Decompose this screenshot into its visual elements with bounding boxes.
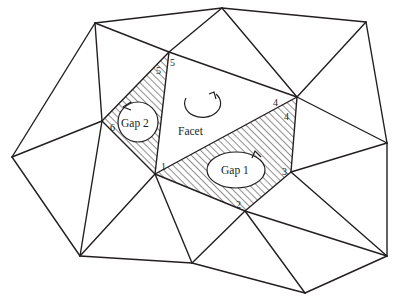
edge	[12, 23, 95, 157]
mesh-edges	[12, 8, 387, 293]
vertex-5-outer-label: 5	[170, 57, 175, 68]
facet-loop: Facet	[178, 92, 221, 137]
vertex-2-label: 2	[236, 199, 241, 210]
edge	[222, 8, 366, 22]
edge	[95, 23, 169, 52]
edge	[95, 8, 222, 23]
vertex-6-label: 6	[110, 122, 115, 133]
vertex-4-inner-label: 4	[284, 111, 289, 122]
vertex-1-label: 1	[161, 161, 166, 172]
edge	[297, 22, 366, 97]
gap-1-loop: Gap 1	[207, 151, 265, 188]
edge	[95, 23, 102, 121]
gap-1-label: Gap 1	[221, 164, 249, 177]
vertex-5-inner-label: 5	[156, 65, 161, 76]
edge	[245, 211, 387, 256]
edge	[291, 172, 387, 256]
edge	[12, 121, 102, 157]
edge	[192, 211, 245, 263]
counterclockwise-arrow-icon	[209, 92, 216, 99]
edge	[80, 256, 192, 263]
edge	[245, 211, 305, 293]
vertex-3-label: 3	[282, 166, 287, 177]
edge	[297, 97, 387, 143]
edge	[12, 157, 80, 256]
edge	[291, 143, 387, 172]
gap-2-label: Gap 2	[121, 117, 149, 130]
edge	[366, 22, 387, 143]
facet-label: Facet	[178, 125, 204, 137]
vertex-4-outer-label: 4	[273, 97, 278, 108]
edge	[192, 263, 305, 293]
triangle-mesh-diagram: Gap 2 Gap 1 Facet 5 5 6 1 4 4 3 2	[0, 0, 395, 301]
edge	[169, 8, 222, 52]
edge	[305, 256, 387, 293]
gap-2-loop: Gap 2	[118, 102, 158, 142]
